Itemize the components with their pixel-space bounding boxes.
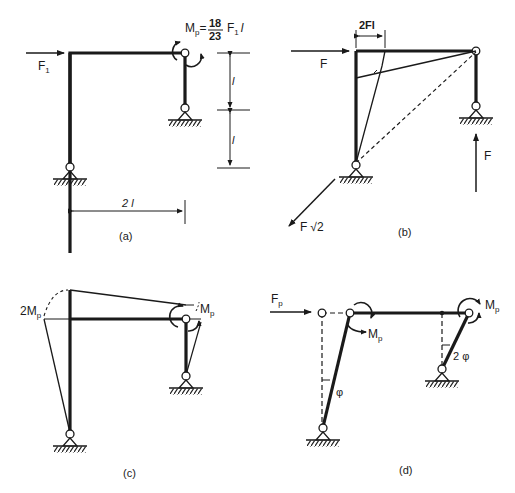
force-label: F	[320, 57, 327, 71]
reaction-left-label: F√2	[300, 220, 324, 234]
caption-b: (b)	[398, 226, 411, 238]
frame-beam	[70, 53, 185, 253]
pin-support	[53, 430, 87, 453]
fraction-numerator: 18	[209, 17, 221, 29]
moment-arrow-icon	[173, 42, 180, 60]
right-moment-label: Mp	[485, 298, 500, 314]
fraction-denominator: 23	[209, 30, 221, 42]
panel-b: F 2Fl F F√2 (b)	[289, 19, 493, 238]
moment-arrow-icon	[170, 306, 183, 327]
left-moment-label: 2Mp	[20, 304, 42, 320]
mp-tail: F1l	[227, 21, 244, 37]
pin-support	[339, 161, 373, 184]
dim-upper-label: l	[232, 75, 235, 87]
angle-left-label: φ	[336, 386, 343, 398]
reaction-right-label: F	[484, 149, 491, 163]
pin-support	[168, 104, 202, 127]
hinge	[181, 49, 189, 57]
pin-support	[425, 365, 459, 388]
moment-arrow-icon	[347, 323, 366, 332]
reaction-arrow-icon	[289, 179, 335, 226]
left-column	[323, 313, 350, 427]
force-label: Fp	[271, 292, 283, 308]
moment-dim-label: 2Fl	[359, 19, 375, 31]
frame-diagrams: F1 Mp= 18 23 F1l l l 2 l (a) F	[0, 0, 515, 493]
angle-right-label: 2 φ	[453, 350, 469, 362]
moment-arrow-icon	[354, 303, 372, 318]
caption-d: (d)	[399, 464, 412, 476]
dashed-line	[356, 52, 476, 163]
force-label: F1	[38, 59, 50, 75]
dim-lower-label: l	[232, 134, 235, 146]
panel-a: F1 Mp= 18 23 F1l l l 2 l (a)	[26, 17, 250, 253]
dim-width-label: 2 l	[121, 197, 134, 209]
panel-d: Fp Mp Mp φ 2 φ (d)	[270, 292, 500, 476]
pin-support	[306, 424, 340, 447]
mp-label: Mp=	[185, 21, 206, 37]
caption-c: (c)	[123, 467, 136, 479]
right-moment-label: Mp	[200, 302, 215, 318]
panel-c: 2Mp Mp (c)	[20, 290, 215, 479]
mid-moment-label: Mp	[368, 327, 383, 343]
pin-support	[459, 102, 493, 125]
moment-arrow-icon	[188, 321, 199, 331]
caption-a: (a)	[119, 230, 132, 242]
pin-support	[169, 372, 203, 395]
